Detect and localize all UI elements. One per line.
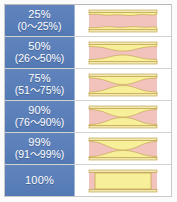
grade-label-cell-100: 100% <box>5 165 75 196</box>
grade-range: (51～75%) <box>15 85 65 97</box>
diagram-cell-90 <box>75 101 171 132</box>
vessel-stenosis-99-icon <box>88 136 158 162</box>
table-row: 25% (0～25%) <box>5 5 171 37</box>
table-row: 100% <box>5 165 171 196</box>
grade-percent: 25% <box>28 8 51 20</box>
diagram-cell-75 <box>75 69 171 100</box>
grade-label-cell-50: 50% (26～50%) <box>5 37 75 68</box>
figure-frame: 25% (0～25%) 50% (26～50%) <box>0 0 177 202</box>
grade-range: (76～90%) <box>15 117 65 129</box>
vessel-stenosis-25-icon <box>88 9 158 33</box>
vessel-stenosis-90-icon <box>88 105 158 129</box>
diagram-cell-25 <box>75 5 171 36</box>
grade-percent: 90% <box>28 104 51 116</box>
grade-label-cell-25: 25% (0～25%) <box>5 5 75 36</box>
grade-label-cell-99: 99% (91～99%) <box>5 133 75 164</box>
diagram-cell-50 <box>75 37 171 68</box>
diagram-cell-100 <box>75 165 171 196</box>
table-row: 99% (91～99%) <box>5 133 171 165</box>
diagram-cell-99 <box>75 133 171 164</box>
grade-range: (0～25%) <box>18 21 62 33</box>
table-row: 75% (51～75%) <box>5 69 171 101</box>
grade-percent: 75% <box>28 72 51 84</box>
vessel-stenosis-100-icon <box>88 168 158 194</box>
table-row: 50% (26～50%) <box>5 37 171 69</box>
grade-label-cell-75: 75% (51～75%) <box>5 69 75 100</box>
stenosis-grade-table: 25% (0～25%) 50% (26～50%) <box>4 4 172 197</box>
grade-percent: 100% <box>25 174 54 186</box>
grade-label-cell-90: 90% (76～90%) <box>5 101 75 132</box>
grade-percent: 99% <box>28 136 51 148</box>
vessel-stenosis-75-icon <box>88 72 158 98</box>
table-row: 90% (76～90%) <box>5 101 171 133</box>
grade-range: (26～50%) <box>15 53 65 65</box>
grade-percent: 50% <box>28 40 51 52</box>
vessel-stenosis-50-icon <box>88 41 158 65</box>
grade-range: (91～99%) <box>15 149 65 161</box>
